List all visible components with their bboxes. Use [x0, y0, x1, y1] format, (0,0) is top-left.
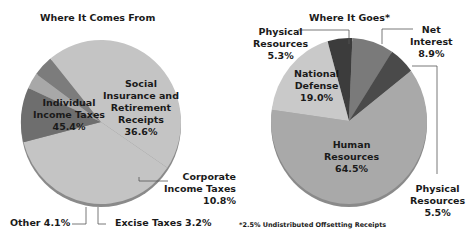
footnote: *2.5% Undistributed Offsetting Receipts — [239, 221, 386, 229]
right-pie — [271, 38, 427, 207]
label-other: Other 4.1% — [10, 217, 70, 229]
left-chart-title: Where It Comes From — [40, 12, 155, 23]
right-chart-title: Where It Goes* — [309, 12, 390, 23]
label-physical-resources-bottom: PhysicalResources5.5% — [410, 183, 465, 219]
label-physical-resources-top: PhysicalResources5.3% — [253, 26, 308, 62]
label-excise-taxes: Excise Taxes 3.2% — [115, 217, 211, 229]
label-individual-income-taxes: IndividualIncome Taxes45.4% — [33, 97, 105, 133]
label-social-insurance: SocialInsurance andRetirementReceipts36.… — [103, 78, 179, 138]
label-net-interest: NetInterest8.9% — [410, 24, 453, 60]
label-national-defense: NationalDefense19.0% — [294, 68, 339, 104]
label-human-resources: HumanResources64.5% — [324, 139, 379, 175]
label-corporate-income-taxes: CorporateIncome Taxes10.8% — [164, 171, 236, 207]
